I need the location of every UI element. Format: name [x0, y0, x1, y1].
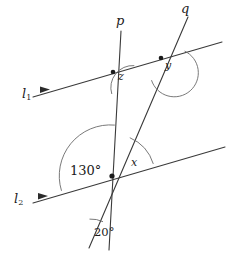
geometry-figure: p q l1 l2 z y x 130° 20°	[0, 0, 230, 258]
label-angle-z: z	[118, 71, 124, 82]
label-line-q: q	[181, 2, 189, 15]
label-line-l2-subscript: 2	[18, 198, 23, 207]
label-line-l1-subscript: 1	[26, 93, 31, 102]
angle-arc-y	[152, 51, 199, 97]
angle-arc-130	[59, 125, 115, 191]
label-angle-20: 20°	[94, 227, 114, 239]
label-line-l2: l2	[14, 192, 23, 207]
label-angle-130: 130°	[70, 164, 101, 177]
label-line-p: p	[116, 14, 124, 27]
label-angle-y: y	[165, 60, 171, 71]
intersection-dot-l2-p-q	[109, 173, 114, 178]
line-p	[109, 31, 121, 250]
line-l1	[33, 42, 222, 97]
intersection-dot-l1-q	[159, 56, 164, 61]
label-angle-x: x	[131, 157, 137, 168]
intersection-dot-l1-p	[111, 70, 116, 75]
geometry-canvas	[0, 0, 230, 258]
label-line-l1: l1	[22, 87, 31, 102]
line-q	[89, 17, 188, 248]
